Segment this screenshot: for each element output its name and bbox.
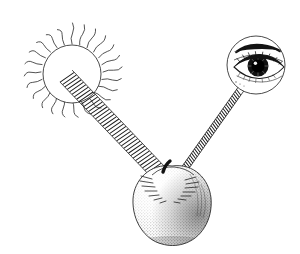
illustration-canvas: Light Path From Sun To Apple To Eye xyxy=(0,0,300,254)
pupil xyxy=(251,59,264,72)
eye-group xyxy=(227,36,285,94)
light-path-diagram: Light Path From Sun To Apple To Eye xyxy=(0,0,300,254)
beam-apple-to-eye xyxy=(175,87,244,180)
sun-group xyxy=(24,23,122,117)
eye-highlight xyxy=(254,62,257,65)
apple-group xyxy=(128,158,218,250)
beam-sun-to-apple xyxy=(60,70,170,184)
